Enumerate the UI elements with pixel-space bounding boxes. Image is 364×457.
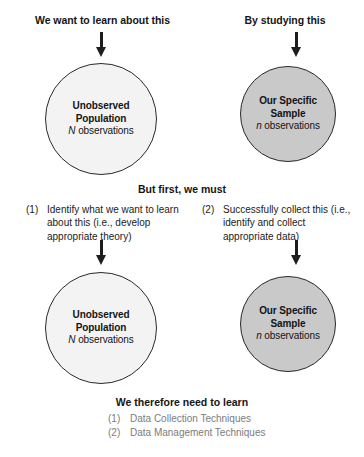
down-arrow-icon [289, 32, 303, 58]
step-marker: (1) [26, 203, 47, 243]
down-arrow-icon [94, 240, 108, 266]
circle-our-specific-sample-top: Our Specific Sample n observations [240, 66, 336, 162]
circle-label-line2: Sample [271, 318, 306, 330]
circle-label-line1: Unobserved [73, 309, 130, 321]
step-item-2: (2) Successfully collect this (i.e., ide… [202, 203, 352, 243]
circle-label-line1: Unobserved [73, 100, 130, 112]
circle-observations: N observations [68, 334, 133, 346]
step-text: Identify what we want to learn about thi… [47, 203, 191, 243]
footer-marker: (2) [108, 426, 130, 440]
header-left-population: We want to learn about this [0, 14, 205, 26]
footer-list: (1) Data Collection Techniques (2) Data … [108, 412, 338, 440]
step-text: Successfully collect this (i.e., identif… [223, 203, 352, 243]
circle-label-line2: Sample [271, 108, 306, 120]
arrow-head [291, 255, 301, 265]
footer-text: Data Management Techniques [130, 426, 265, 440]
arrow-head [291, 47, 301, 57]
population-observations-label: observations [75, 125, 133, 136]
diagram-canvas: We want to learn about this By studying … [0, 0, 364, 457]
circle-label-line2: Population [76, 322, 127, 334]
population-observations-label: observations [75, 334, 133, 345]
circle-unobserved-population-bottom: Unobserved Population N observations [45, 272, 157, 384]
down-arrow-icon [289, 240, 303, 266]
circle-our-specific-sample-bottom: Our Specific Sample n observations [240, 276, 336, 372]
footer-marker: (1) [108, 412, 130, 426]
sample-observations-label: observations [262, 330, 320, 341]
circle-label-line2: Population [76, 113, 127, 125]
down-arrow-icon [94, 32, 108, 58]
circle-observations: n observations [256, 330, 320, 342]
circle-label-line1: Our Specific [259, 305, 317, 317]
circle-label-line1: Our Specific [259, 95, 317, 107]
circle-observations: N observations [68, 125, 133, 137]
middle-heading: But first, we must [0, 183, 364, 195]
header-right-sample: By studying this [206, 14, 364, 26]
circle-unobserved-population-top: Unobserved Population N observations [45, 63, 157, 175]
arrow-head [96, 255, 106, 265]
footer-heading: We therefore need to learn [0, 396, 364, 408]
footer-text: Data Collection Techniques [130, 412, 251, 426]
step-marker: (2) [202, 203, 223, 243]
footer-list-item: (1) Data Collection Techniques [108, 412, 338, 426]
step-item-1: (1) Identify what we want to learn about… [26, 203, 191, 243]
arrow-head [96, 47, 106, 57]
footer-list-item: (2) Data Management Techniques [108, 426, 338, 440]
sample-observations-label: observations [262, 120, 320, 131]
circle-observations: n observations [256, 120, 320, 132]
